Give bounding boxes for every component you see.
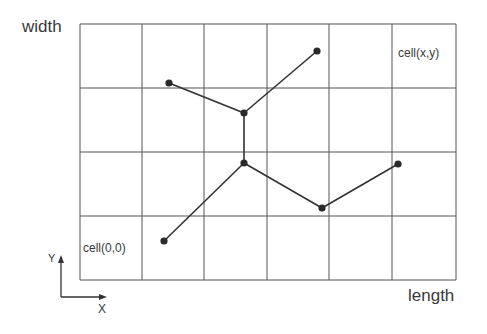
axis-indicator [58, 255, 107, 300]
y-axis-label: Y [48, 252, 55, 264]
node-dot [160, 237, 167, 244]
edge [244, 163, 322, 208]
cell-origin-label: cell(0,0) [83, 241, 126, 255]
node-dot [318, 204, 325, 211]
y-arrow-icon [58, 255, 64, 263]
x-arrow-icon [99, 294, 107, 300]
x-axis-label: X [98, 302, 106, 316]
tree-edges [164, 51, 398, 241]
node-dot [165, 79, 172, 86]
edge [322, 164, 398, 208]
tree-nodes [160, 47, 401, 244]
node-dot [240, 159, 247, 166]
edge [244, 51, 317, 113]
node-dot [313, 47, 320, 54]
node-dot [394, 160, 401, 167]
cell-xy-label: cell(x,y) [398, 46, 439, 60]
node-dot [240, 109, 247, 116]
length-axis-label: length [408, 286, 454, 306]
grid-lines [80, 24, 456, 280]
width-axis-label: width [22, 17, 62, 37]
